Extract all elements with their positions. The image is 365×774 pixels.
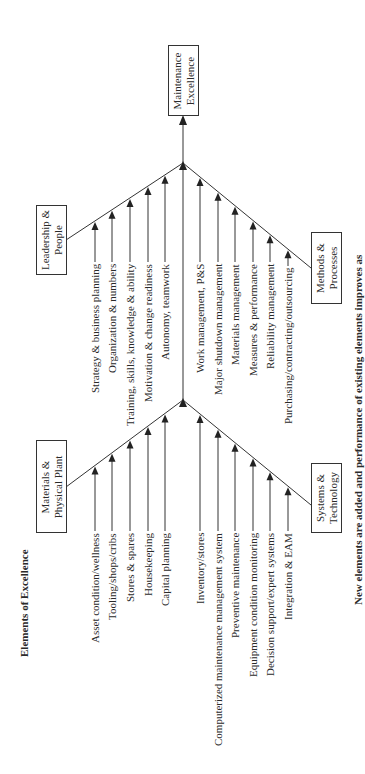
methods-processes-box: Methods & Processes <box>311 232 342 304</box>
materials-line2: Physical Plant <box>52 455 65 518</box>
maintenance-excellence-box: Maintenance Excellence <box>168 45 199 116</box>
materials-line1: Materials & <box>39 455 52 518</box>
elements-of-excellence-diagram: Maintenance Excellence Leadership & Peop… <box>0 0 365 774</box>
leadership-item: Organization & numbers <box>106 264 118 373</box>
systems-item: Equipment condition monitoring <box>247 533 259 677</box>
goal-line1: Maintenance <box>171 52 184 109</box>
systems-line1: Systems & <box>314 472 327 524</box>
materials-item: Tooling/shops/cribs <box>106 533 118 620</box>
systems-item: Integration & EAM <box>282 533 294 620</box>
leadership-item: Strategy & business planning <box>89 264 101 393</box>
methods-item: Reliability management <box>264 264 276 369</box>
diagram-caption: New elements are added and performance o… <box>352 255 364 605</box>
leadership-line2: People <box>52 210 65 270</box>
systems-technology-box: Systems & Technology <box>311 463 342 533</box>
methods-item: Work management, P&S <box>194 264 206 373</box>
leadership-item: Motivation & change readiness <box>142 264 154 402</box>
materials-item: Housekeeping <box>142 533 154 596</box>
leadership-line1: Leadership & <box>39 210 52 270</box>
systems-item: Computerized maintenance management syst… <box>212 533 224 746</box>
materials-item: Capital planning <box>159 533 171 606</box>
leadership-item: Autonomy, teamwork <box>159 264 171 360</box>
leadership-item: Training, skills, knowledge & ability <box>124 264 136 426</box>
connector-lines <box>0 0 365 774</box>
leadership-people-box: Leadership & People <box>36 205 67 275</box>
systems-item: Preventive maintenance <box>229 533 241 638</box>
systems-line2: Technology <box>327 472 340 524</box>
systems-item: Decision support/expert systems <box>264 533 276 676</box>
diagram-title: Elements of Excellence <box>18 549 30 657</box>
materials-item: Stores & spares <box>124 533 136 602</box>
methods-item: Purchasing/contracting/outsourcing <box>282 268 294 424</box>
methods-item: Major shutdown management <box>212 264 224 395</box>
methods-item: Measures & performance <box>247 264 259 376</box>
materials-physical-plant-box: Materials & Physical Plant <box>36 440 67 533</box>
methods-line1: Methods & <box>314 243 327 293</box>
materials-item: Asset condition/wellness <box>89 533 101 643</box>
methods-item: Materials management <box>229 265 241 366</box>
methods-line2: Processes <box>327 243 340 293</box>
systems-item: Inventory/stores <box>194 533 206 604</box>
goal-line2: Excellence <box>184 52 197 109</box>
